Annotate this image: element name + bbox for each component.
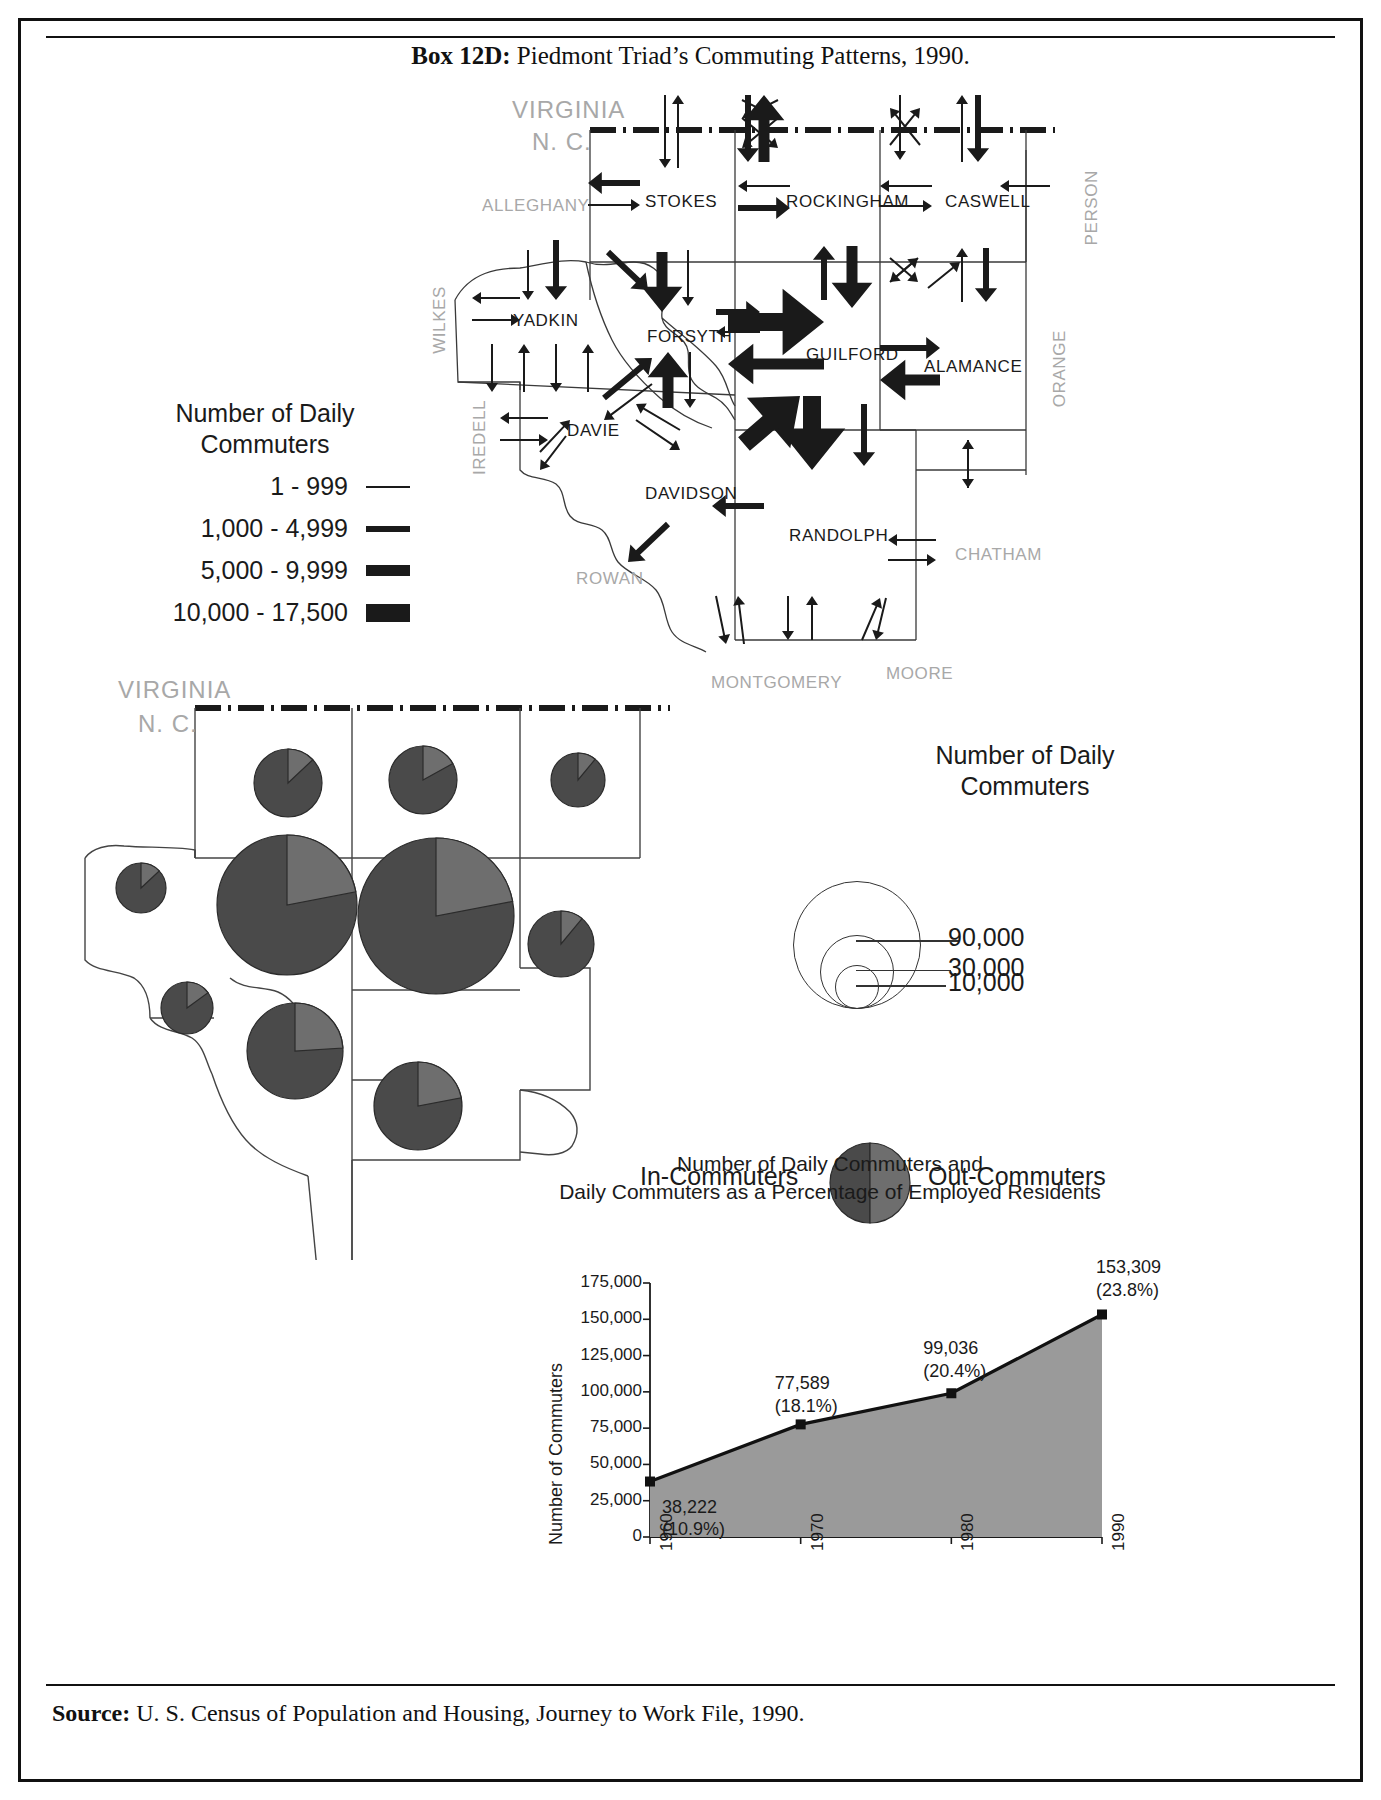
figure-page: Box 12D: Piedmont Triad’s Commuting Patt… <box>0 0 1381 1800</box>
chart-x-tick-label: 1980 <box>958 1513 978 1551</box>
chart-x-tick-label: 1990 <box>1109 1513 1129 1551</box>
flow-legend-label: 1 - 999 <box>270 472 348 501</box>
chart-point-annotation: 77,589(18.1%) <box>775 1372 838 1417</box>
flow-legend-row: 1,000 - 4,999 <box>120 514 410 543</box>
state-label-virginia: VIRGINIA <box>512 96 625 124</box>
flow-county-label-forsyth: FORSYTH <box>647 327 732 347</box>
flow-legend-rows: 1 - 9991,000 - 4,9995,000 - 9,99910,000 … <box>120 472 410 627</box>
circle-size-legend: Number of Daily Commuters 90,00030,00010… <box>790 855 1120 1065</box>
chart-y-tick-label: 0 <box>540 1526 642 1546</box>
commuters-trend-chart: Number of Daily Commuters and Daily Comm… <box>540 1255 1120 1595</box>
flow-county-label-orange: ORANGE <box>1050 330 1070 407</box>
source-text: U. S. Census of Population and Housing, … <box>130 1700 804 1726</box>
chart-y-tick-label: 150,000 <box>540 1308 642 1328</box>
flow-county-label-person: PERSON <box>1082 170 1102 245</box>
circle-legend-ring <box>835 965 879 1009</box>
flow-county-label-davie: DAVIE <box>567 421 620 441</box>
chart-point-value: 38,222 <box>662 1496 725 1519</box>
chart-point-percent: (18.1%) <box>775 1395 838 1418</box>
chart-title: Number of Daily Commuters and Daily Comm… <box>540 1150 1120 1207</box>
chart-y-tick-label: 175,000 <box>540 1272 642 1292</box>
chart-y-tick-label: 50,000 <box>540 1453 642 1473</box>
chart-y-tick-label: 125,000 <box>540 1345 642 1365</box>
source-line: Source: U. S. Census of Population and H… <box>52 1700 805 1727</box>
pie-guilford <box>358 838 514 994</box>
chart-x-tick-label: 1970 <box>808 1513 828 1551</box>
flow-legend-row: 10,000 - 17,500 <box>120 598 410 627</box>
flow-legend-label: 10,000 - 17,500 <box>173 598 348 627</box>
flow-county-label-guilford: GUILFORD <box>806 345 899 365</box>
flow-county-label-moore: MOORE <box>886 664 953 684</box>
flow-county-label-stokes: STOKES <box>645 192 717 212</box>
source-rule <box>46 1684 1335 1686</box>
flow-legend-swatch <box>366 526 410 532</box>
flow-county-label-randolph: RANDOLPH <box>789 526 888 546</box>
pie-yadkin <box>116 863 166 913</box>
pie-forsyth <box>217 835 357 975</box>
source-label: Source: <box>52 1700 130 1726</box>
chart-point-annotation: 99,036(20.4%) <box>923 1337 986 1382</box>
flow-county-label-iredell: IREDELL <box>470 400 490 475</box>
chart-point-percent: (23.8%) <box>1096 1279 1161 1302</box>
pie-caswell <box>551 753 605 807</box>
pie-davidson <box>247 1003 343 1099</box>
pie-state-label-virginia: VIRGINIA <box>118 676 231 704</box>
pie-state-label-nc: N. C. <box>138 710 198 738</box>
pie-davie <box>161 982 213 1034</box>
circle-legend-title-line2: Commuters <box>910 771 1140 802</box>
circle-legend-label: 10,000 <box>948 968 1024 997</box>
flow-county-label-davidson: DAVIDSON <box>645 484 737 504</box>
pie-rockingham <box>389 746 457 814</box>
circle-legend-label: 90,000 <box>948 923 1024 952</box>
flow-legend: Number of Daily Commuters 1 - 9991,000 -… <box>120 398 410 627</box>
circle-legend-leader <box>856 985 946 986</box>
flow-legend-title: Number of Daily Commuters <box>120 398 410 459</box>
flow-legend-swatch <box>366 604 410 622</box>
chart-point-annotation: 38,222(10.9%) <box>662 1496 725 1541</box>
state-label-nc: N. C. <box>532 128 592 156</box>
chart-point-value: 153,309 <box>1096 1256 1161 1279</box>
flow-county-label-chatham: CHATHAM <box>955 545 1042 565</box>
chart-point-percent: (20.4%) <box>923 1360 986 1383</box>
flow-legend-label: 1,000 - 4,999 <box>201 514 348 543</box>
circle-legend-title: Number of Daily Commuters <box>910 740 1140 801</box>
flow-legend-row: 1 - 999 <box>120 472 410 501</box>
chart-title-line1: Number of Daily Commuters and <box>540 1150 1120 1178</box>
flow-county-label-yadkin: YADKIN <box>513 311 579 331</box>
chart-y-tick-label: 25,000 <box>540 1490 642 1510</box>
flow-legend-swatch <box>366 486 410 488</box>
chart-y-tick-label: 100,000 <box>540 1381 642 1401</box>
flow-county-label-alleghany: ALLEGHANY <box>482 196 589 216</box>
flow-legend-swatch <box>366 565 410 576</box>
flow-legend-title-line1: Number of Daily <box>120 398 410 429</box>
chart-y-tick-label: 75,000 <box>540 1417 642 1437</box>
pie-randolph <box>374 1062 462 1150</box>
chart-point-percent: (10.9%) <box>662 1518 725 1541</box>
flow-county-label-caswell: CASWELL <box>945 192 1030 212</box>
flow-legend-title-line2: Commuters <box>120 429 410 460</box>
chart-point-annotation: 153,309(23.8%) <box>1096 1256 1161 1301</box>
circle-legend-title-line1: Number of Daily <box>910 740 1140 771</box>
chart-point-value: 99,036 <box>923 1337 986 1360</box>
flow-county-label-rockingham: ROCKINGHAM <box>786 192 909 212</box>
chart-title-line2: Daily Commuters as a Percentage of Emplo… <box>540 1178 1120 1206</box>
pie-alamance <box>528 911 594 977</box>
flow-county-label-alamance: ALAMANCE <box>924 357 1022 377</box>
flow-legend-row: 5,000 - 9,999 <box>120 556 410 585</box>
chart-point-value: 77,589 <box>775 1372 838 1395</box>
pie-stokes <box>254 749 322 817</box>
flow-legend-label: 5,000 - 9,999 <box>201 556 348 585</box>
flow-county-label-wilkes: WILKES <box>430 286 450 354</box>
flow-county-label-rowan: ROWAN <box>576 569 644 589</box>
